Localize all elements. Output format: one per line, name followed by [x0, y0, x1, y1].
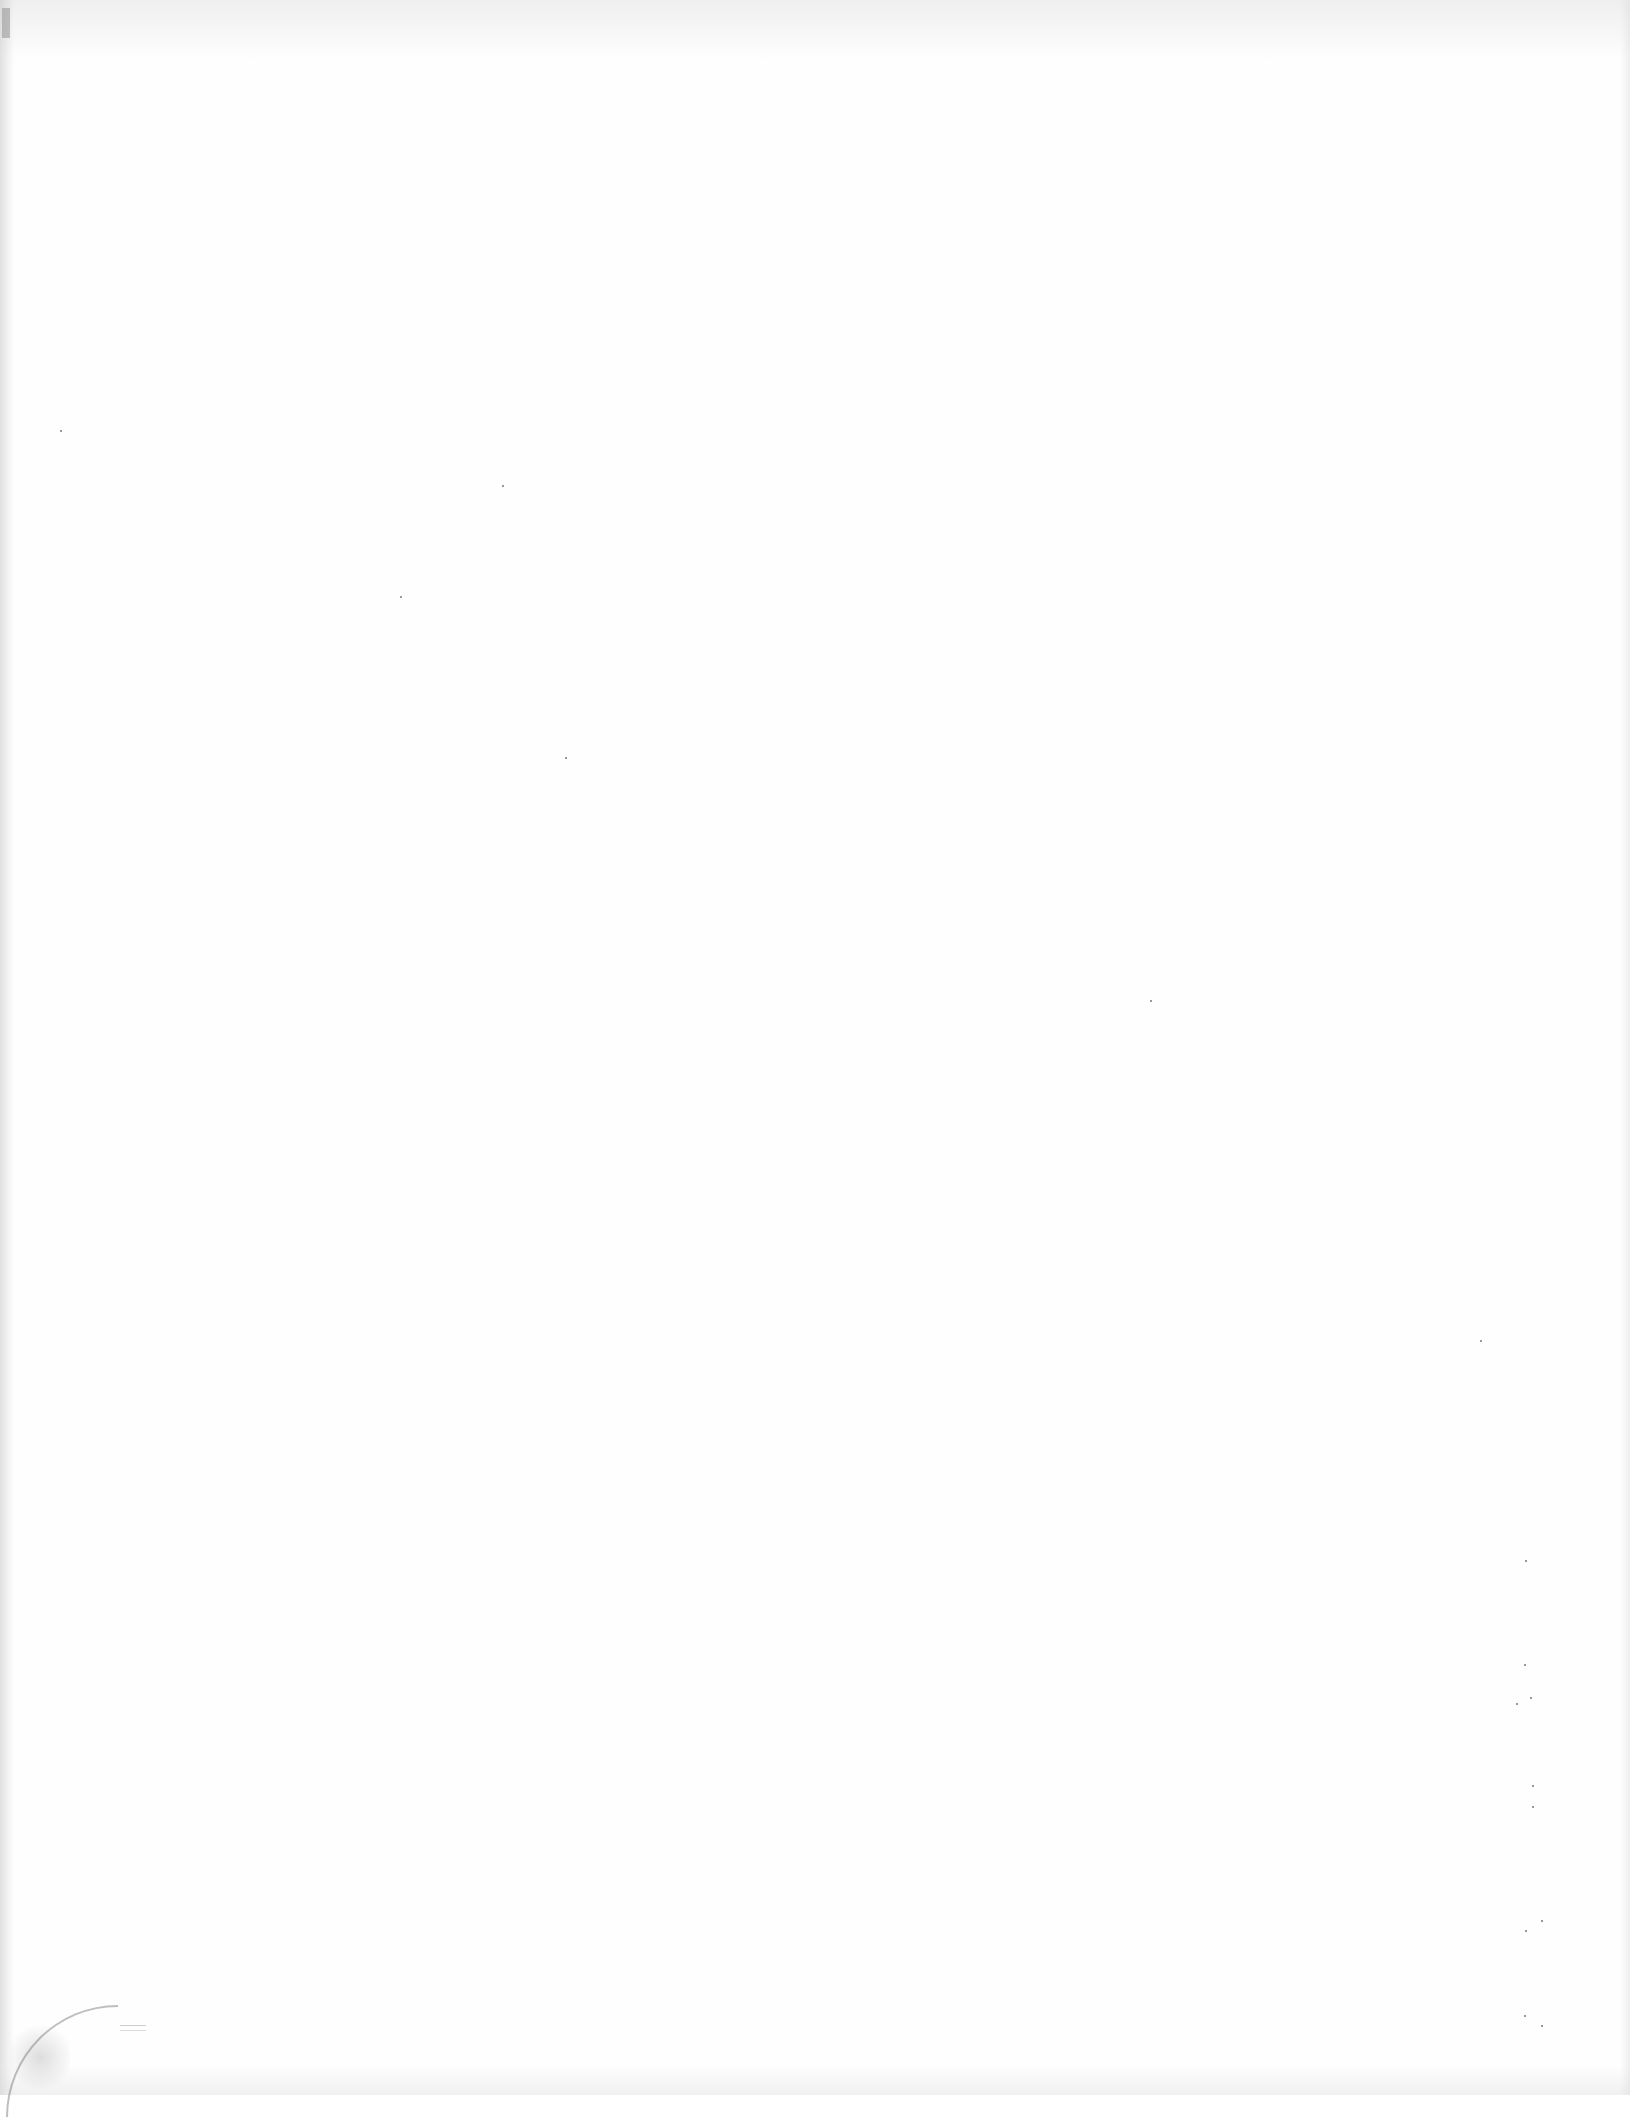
scan-edge-shadow-bottom	[0, 2065, 1630, 2095]
scan-speck	[502, 485, 504, 487]
scan-speck	[1524, 1664, 1526, 1666]
scan-speck	[1532, 1806, 1534, 1808]
scan-edge-shadow-left	[0, 0, 14, 2095]
faint-scan-mark	[120, 2025, 146, 2031]
scan-speck	[1525, 1560, 1527, 1562]
scan-speck	[1516, 1703, 1518, 1705]
scan-corner-mark	[2, 8, 10, 38]
scan-speck	[60, 430, 62, 432]
scan-speck	[1150, 1000, 1152, 1002]
scan-edge-shadow-top	[0, 0, 1630, 60]
scan-speck	[1541, 2025, 1543, 2027]
scan-speck	[1525, 1930, 1527, 1932]
scan-speck	[1532, 1785, 1534, 1787]
scan-speck	[400, 596, 402, 598]
scan-speck	[1530, 1697, 1532, 1699]
scan-speck	[1524, 2015, 1526, 2017]
scan-edge-shadow-right	[1620, 0, 1630, 2095]
scan-speck	[565, 757, 567, 759]
scan-speck	[1541, 1920, 1543, 1922]
scan-speck	[1480, 1340, 1482, 1342]
